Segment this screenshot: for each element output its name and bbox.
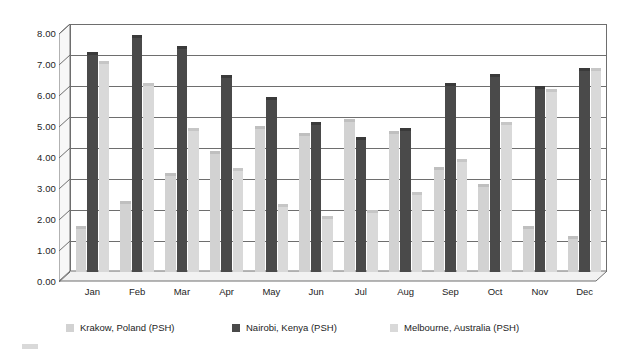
bar-sep-s1: [445, 86, 456, 272]
bar-aug-s2: [412, 195, 423, 273]
bar-jun-s0: [299, 136, 310, 272]
bar-top-face: [535, 86, 546, 89]
legend-item: Krakow, Poland (PSH): [66, 322, 175, 334]
x-axis-tick-label: Jan: [70, 286, 115, 298]
bar-mar-s2: [188, 131, 199, 272]
bar-apr-s0: [210, 154, 221, 272]
bar-jul-s2: [367, 213, 378, 272]
bar-aug-s1: [400, 131, 411, 272]
bar-group: [294, 24, 339, 272]
bar-group: [383, 24, 428, 272]
bar-top-face: [132, 35, 143, 38]
bar-dec-s0: [568, 239, 579, 272]
bar-nov-s1: [535, 89, 546, 272]
bar-group: [473, 24, 518, 272]
x-axis-tick-label: Mar: [160, 286, 205, 298]
bar-group: [562, 24, 607, 272]
bar-top-face: [221, 75, 232, 78]
bar-top-face: [76, 226, 87, 229]
bar-mar-s1: [177, 49, 188, 272]
y-axis-tick-label: 5.00: [14, 122, 56, 132]
y-axis-tick-label: 7.00: [14, 60, 56, 70]
bar-top-face: [434, 167, 445, 170]
bar-top-face: [322, 216, 333, 219]
bar-jun-s2: [322, 219, 333, 272]
bar-aug-s0: [389, 134, 400, 272]
bar-oct-s0: [478, 187, 489, 272]
bar-top-face: [188, 128, 199, 131]
bar-feb-s0: [120, 204, 131, 272]
legend-label: Melbourne, Australia (PSH): [404, 322, 519, 334]
bar-group: [204, 24, 249, 272]
bar-top-face: [591, 68, 602, 71]
x-axis-tick-label: May: [249, 286, 294, 298]
bar-top-face: [233, 168, 244, 171]
x-axis-tick-label: Oct: [473, 286, 518, 298]
bar-top-face: [255, 126, 266, 129]
bar-top-face: [457, 159, 468, 162]
bar-jan-s0: [76, 229, 87, 272]
bar-may-s1: [266, 100, 277, 272]
bar-top-face: [389, 131, 400, 134]
legend-swatch: [66, 324, 74, 332]
y-axis-tick-label: 4.00: [14, 153, 56, 163]
x-axis: JanFebMarAprMayJunJulAugSepOctNovDec: [59, 286, 607, 302]
y-axis-tick-label: 6.00: [14, 91, 56, 101]
bar-top-face: [165, 173, 176, 176]
bar-top-face: [266, 97, 277, 100]
grid-connector: [59, 272, 71, 283]
y-axis-tick-label: 0.00: [14, 277, 56, 287]
bar-top-face: [143, 83, 154, 86]
bar-top-face: [501, 122, 512, 125]
y-axis-tick-label: 2.00: [14, 215, 56, 225]
plot-area: [59, 24, 607, 282]
bar-jan-s1: [87, 55, 98, 272]
bar-may-s0: [255, 129, 266, 272]
bar-top-face: [568, 236, 579, 239]
x-axis-tick-label: Feb: [115, 286, 160, 298]
bar-top-face: [311, 122, 322, 125]
bar-group: [70, 24, 115, 272]
x-axis-tick-label: Dec: [562, 286, 607, 298]
bar-top-face: [210, 151, 221, 154]
bar-mar-s0: [165, 176, 176, 272]
legend-item: Melbourne, Australia (PSH): [390, 322, 519, 334]
bar-chart: 8.007.006.005.004.003.002.001.000.00 Jan…: [0, 0, 618, 349]
legend-item: Nairobi, Kenya (PSH): [232, 322, 337, 334]
bar-group: [160, 24, 205, 272]
bar-jul-s0: [344, 122, 355, 272]
legend-label: Nairobi, Kenya (PSH): [246, 322, 337, 334]
bar-top-face: [478, 184, 489, 187]
bar-top-face: [412, 192, 423, 195]
bar-top-face: [356, 137, 367, 140]
bar-top-face: [490, 74, 501, 77]
bar-top-face: [299, 133, 310, 136]
bar-sep-s2: [457, 162, 468, 272]
x-axis-tick-label: Apr: [204, 286, 249, 298]
bar-top-face: [445, 83, 456, 86]
bar-top-face: [367, 210, 378, 213]
y-axis: 8.007.006.005.004.003.002.001.000.00: [14, 24, 56, 282]
bar-jun-s1: [311, 125, 322, 272]
bar-dec-s2: [591, 71, 602, 273]
bar-group: [428, 24, 473, 272]
bar-top-face: [344, 119, 355, 122]
x-axis-tick-label: Aug: [383, 286, 428, 298]
bar-may-s2: [278, 207, 289, 272]
chart-legend: Krakow, Poland (PSH)Nairobi, Kenya (PSH)…: [0, 322, 618, 338]
bar-group: [249, 24, 294, 272]
bar-feb-s2: [143, 86, 154, 272]
footer-artifact: [22, 344, 38, 349]
bar-oct-s1: [490, 77, 501, 272]
bar-oct-s2: [501, 125, 512, 272]
bar-top-face: [579, 68, 590, 71]
y-axis-tick-label: 1.00: [14, 246, 56, 256]
bar-top-face: [400, 128, 411, 131]
bar-top-face: [278, 204, 289, 207]
y-axis-tick-label: 3.00: [14, 184, 56, 194]
bar-top-face: [523, 226, 534, 229]
bar-top-face: [120, 201, 131, 204]
bar-feb-s1: [132, 38, 143, 272]
bars-layer: [70, 24, 607, 272]
bar-top-face: [546, 89, 557, 92]
